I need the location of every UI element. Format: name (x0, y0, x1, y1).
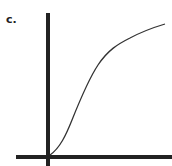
sigmoid-diagram (0, 0, 172, 166)
sigmoid-curve (50, 24, 165, 155)
